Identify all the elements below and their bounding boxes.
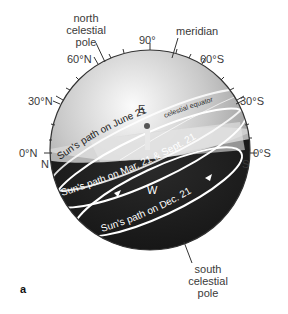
- direction-w-label: W: [147, 184, 157, 196]
- meridian-label: meridian: [176, 25, 218, 37]
- lat-0S-label: 0°S: [253, 147, 271, 159]
- lat-0N-label: 0°N: [19, 147, 37, 159]
- lat-30S-label: 30°S: [240, 95, 264, 107]
- celestial-sphere-diagram: Sun's path on June 21 Sun's path on Mar.…: [0, 0, 288, 314]
- south-pole-leader: [184, 242, 192, 263]
- lat-30N-leader: [53, 101, 60, 104]
- lat-30N-label: 30°N: [28, 95, 53, 107]
- direction-e-label: E: [138, 103, 145, 115]
- direction-n-label: N: [41, 158, 49, 170]
- zenith-label: 90°: [139, 34, 156, 46]
- north-celestial-pole-label: north celestial pole: [66, 12, 106, 48]
- south-celestial-pole-label: south celestial pole: [188, 263, 228, 299]
- lat-60N-label: 60°N: [67, 53, 92, 65]
- panel-label: a: [20, 283, 26, 295]
- direction-s-label: S: [242, 158, 249, 170]
- lat-60S-label: 60°S: [200, 53, 224, 65]
